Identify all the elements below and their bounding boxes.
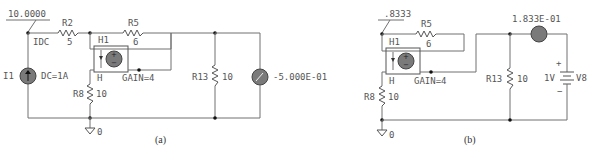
h-pin-label: H xyxy=(97,73,102,83)
ground-icon xyxy=(377,130,387,136)
resistor-r5 xyxy=(123,30,143,36)
circuit-a: 10.0000 R2 5 IDC R5 6 H1 + − GAIN=4 H xyxy=(3,9,327,146)
idc-label: IDC xyxy=(33,37,49,47)
node-voltage-b: .8333 xyxy=(384,9,411,19)
resistor-r8 xyxy=(87,84,93,104)
ammeter-reading-b: 1.833E-01 xyxy=(512,14,561,24)
junction-dot xyxy=(429,70,433,74)
junction-dot xyxy=(508,118,512,122)
i1-value: DC=1A xyxy=(41,71,69,81)
svg-text:+: + xyxy=(111,51,117,59)
r5-name: R5 xyxy=(128,18,139,28)
resistor-r13 xyxy=(507,68,513,89)
battery-v8-icon xyxy=(560,72,574,84)
node-voltage-a: 10.0000 xyxy=(8,9,46,19)
ground-icon xyxy=(85,128,95,134)
voltage-marker-pointer xyxy=(28,20,36,32)
r2-name: R2 xyxy=(62,18,73,28)
caption-b: (b) xyxy=(464,134,476,146)
r13-value: 10 xyxy=(222,72,233,82)
r5-value: 6 xyxy=(426,39,431,49)
r8-value: 10 xyxy=(96,89,107,99)
resistor-r8 xyxy=(379,86,385,106)
r8-name: R8 xyxy=(364,92,375,102)
resistor-r13 xyxy=(212,65,218,86)
voltage-marker-pointer xyxy=(382,20,390,33)
svg-text:−: − xyxy=(403,61,409,69)
r8-value: 10 xyxy=(388,92,399,102)
current-sense-arrow-icon xyxy=(99,56,103,60)
caption-a: (a) xyxy=(155,134,166,146)
junction-dot xyxy=(137,68,141,72)
resistor-r5 xyxy=(416,31,436,37)
r5-value: 6 xyxy=(133,37,138,47)
ammeter-reading-a: -5.000E-01 xyxy=(273,72,327,82)
v8-plus: + xyxy=(556,58,562,68)
gain-label: GAIN=4 xyxy=(122,73,155,83)
svg-text:−: − xyxy=(111,59,117,67)
circuit-b: .8333 R5 6 H1 + − GAIN=4 H R8 10 xyxy=(364,9,587,146)
i1-name: I1 xyxy=(3,71,14,81)
gain-label: GAIN=4 xyxy=(414,76,447,86)
r2-value: 5 xyxy=(67,37,72,47)
h1-name: H1 xyxy=(389,37,400,47)
r13-value: 10 xyxy=(517,74,528,84)
current-sense-arrow-icon xyxy=(391,58,395,62)
svg-text:+: + xyxy=(403,53,409,61)
resistor-r2 xyxy=(58,30,78,36)
ground-label: 0 xyxy=(97,127,102,137)
r13-name: R13 xyxy=(486,74,502,84)
r8-name: R8 xyxy=(73,89,84,99)
v8-value: 1V xyxy=(544,73,555,83)
v8-minus: − xyxy=(557,86,563,96)
r5-name: R5 xyxy=(421,19,432,29)
junction-dot xyxy=(213,116,217,120)
ammeter-icon xyxy=(531,26,547,42)
h-pin-label: H xyxy=(389,76,394,86)
h1-name: H1 xyxy=(98,35,109,45)
ground-label: 0 xyxy=(389,130,394,140)
v8-name: V8 xyxy=(576,73,587,83)
r13-name: R13 xyxy=(192,72,208,82)
